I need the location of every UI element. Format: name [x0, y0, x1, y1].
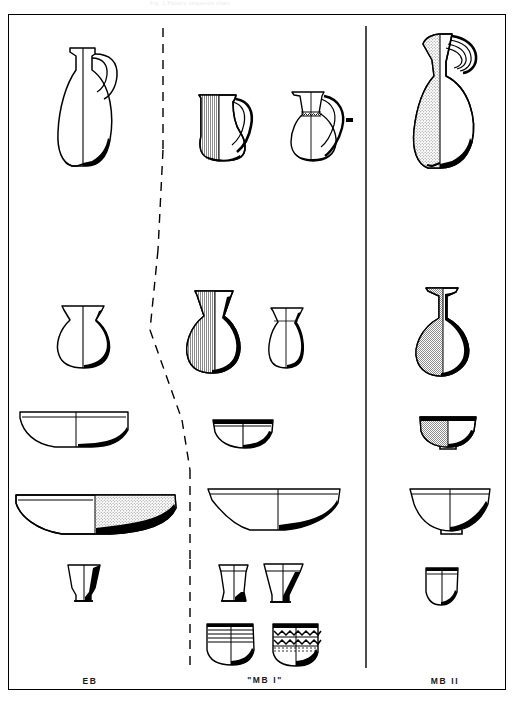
vessel-eb-cup — [68, 565, 100, 601]
vessel-mb1-jug-b — [291, 92, 343, 161]
vessel-mb1-cup-b — [264, 564, 303, 602]
column-label-mb1: "MB I" — [210, 675, 320, 685]
vessel-mb1-cup-a — [219, 565, 248, 601]
vessel-mb2-juglet — [416, 288, 469, 376]
vessel-mb1-dec-b — [273, 624, 321, 666]
divider-eb-mb1 — [150, 28, 190, 668]
vessel-mb1-jar-b — [269, 308, 303, 368]
vessel-eb-jar — [57, 306, 109, 368]
vessel-eb-jug — [58, 48, 117, 166]
vessel-mb2-platter — [410, 489, 490, 534]
vessel-eb-platter — [16, 495, 176, 534]
vessel-mb2-cup — [426, 568, 458, 605]
vessel-eb-bowl-sm — [20, 412, 128, 447]
pottery-drawings — [0, 0, 517, 706]
column-label-eb: EB — [40, 676, 140, 686]
column-label-mb2: MB II — [390, 676, 500, 686]
vessel-mb1-platter — [208, 489, 340, 530]
vessel-mb1-jar-a — [187, 291, 240, 373]
vessel-mb2-bowl-sm — [420, 417, 476, 449]
plate-page: Fig. 1 Pottery sequence chart — [0, 0, 517, 706]
vessel-mb1-bowl-sm — [213, 420, 273, 448]
vessel-mb1-jug-a — [199, 95, 252, 161]
vessel-mb1-jug-b-dot — [346, 118, 353, 122]
vessel-mb1-dec-a — [207, 624, 254, 665]
vessel-mb2-jug — [414, 34, 477, 168]
